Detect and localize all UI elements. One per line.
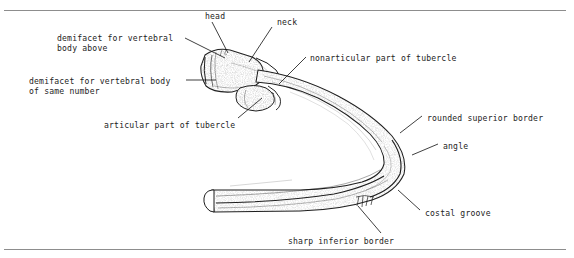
label-head: head (205, 11, 225, 21)
leader-inferior-border (358, 206, 381, 233)
label-articular_tubercle: articular part of tubercle (104, 120, 235, 130)
label-demifacet_same: demifacet for vertebral body of same num… (29, 76, 170, 97)
label-sharp_inferior_border: sharp inferior border (288, 236, 394, 246)
label-angle: angle (443, 141, 468, 151)
rib-anatomy-figure: headneckdemifacet for vertebral body abo… (0, 0, 574, 258)
label-rounded_superior_border: rounded superior border (427, 113, 543, 123)
leader-head (212, 22, 228, 53)
label-costal_groove: costal groove (425, 208, 491, 218)
label-demifacet_above: demifacet for vertebral body above (57, 33, 173, 54)
label-nonarticular_tubercle: nonarticular part of tubercle (310, 53, 457, 63)
leader-costal-groove (398, 190, 420, 210)
sternal-end (204, 190, 214, 212)
leader-angle (412, 144, 438, 155)
leader-neck (249, 27, 272, 62)
label-neck: neck (277, 17, 297, 27)
leader-superior-border (400, 116, 422, 133)
shaft-surface-streak (230, 180, 292, 186)
